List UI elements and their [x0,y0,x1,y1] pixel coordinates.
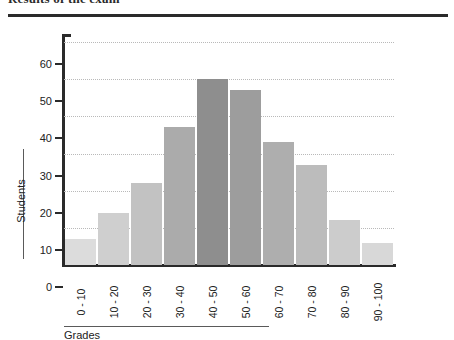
bar[interactable] [296,165,327,265]
y-axis-tick [55,63,63,65]
bar-slot [361,42,394,265]
x-tick-slot: 30 - 40 [163,270,196,326]
bar-slot [229,42,262,265]
y-axis-title-group: Students [10,149,24,259]
bar-slot [97,42,130,265]
bar[interactable] [263,142,294,265]
x-axis-title-rule [64,326,269,327]
x-axis-tick-label: 70 - 80 [306,286,318,319]
page-title: Results of the exam [8,0,120,7]
bar-slot [196,42,229,265]
y-axis-tick [55,100,63,102]
y-axis-tick [55,212,63,214]
bar-slot [328,42,361,265]
x-tick-slot: 20 - 30 [130,270,163,326]
y-axis-top-cap [62,34,71,37]
x-axis-tick-label: 40 - 50 [207,286,219,319]
y-axis-tick-label: 40 [6,133,52,143]
x-axis-tick-label: 60 - 70 [273,286,285,319]
bar[interactable] [65,239,96,265]
y-axis-tick [55,249,63,251]
bar[interactable] [164,127,195,265]
x-axis-title: Grades [64,329,100,340]
y-axis-tick-label: 50 [6,96,52,106]
y-axis-tick [55,137,63,139]
x-tick-slot: 0 - 10 [64,270,97,326]
x-axis-tick-label: 90 - 100 [372,283,384,322]
bar[interactable] [230,90,261,265]
bar-chart-figure: 0102030405060 Students 0 - 1010 - 2020 -… [0,20,454,340]
x-axis-tick-label: 50 - 60 [240,286,252,319]
y-axis-tick [55,286,63,288]
x-tick-slot: 70 - 80 [295,270,328,326]
bar-slot [295,42,328,265]
x-tick-slot: 90 - 100 [361,270,394,326]
bar-slot [130,42,163,265]
bar[interactable] [329,220,360,265]
x-tick-slot: 40 - 50 [196,270,229,326]
y-axis-tick-label: 0 [6,282,52,292]
x-axis-tick-label: 0 - 10 [75,289,87,316]
bar[interactable] [131,183,162,265]
bar-series [64,42,394,265]
bar-slot [64,42,97,265]
x-tick-slot: 50 - 60 [229,270,262,326]
bar-slot [163,42,196,265]
y-axis-title: Students [15,156,27,246]
bar[interactable] [98,213,129,265]
x-axis-tick-labels: 0 - 1010 - 2020 - 3030 - 4040 - 5050 - 6… [64,270,394,326]
bar[interactable] [362,243,393,265]
x-tick-slot: 10 - 20 [97,270,130,326]
y-axis-tick-label: 60 [6,59,52,69]
plot-area [64,42,394,265]
x-axis-tick-label: 20 - 30 [141,286,153,319]
x-axis-tick-label: 10 - 20 [108,286,120,319]
bar-slot [262,42,295,265]
x-axis-tick-label: 80 - 90 [339,286,351,319]
header-divider [8,14,448,17]
bar[interactable] [197,79,228,265]
x-tick-slot: 60 - 70 [262,270,295,326]
y-axis-tick [55,175,63,177]
x-axis-tick-label: 30 - 40 [174,286,186,319]
x-tick-slot: 80 - 90 [328,270,361,326]
